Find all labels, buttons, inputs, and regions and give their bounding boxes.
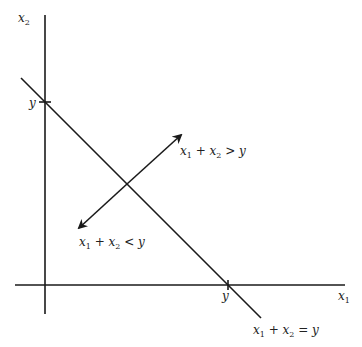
horizontal-axis-label: x1	[338, 289, 350, 305]
vertical-axis-label: x2	[18, 11, 30, 27]
region-label-less: x1 + x2 < y	[79, 235, 145, 251]
arrow-greater-region	[127, 135, 181, 184]
vertical-intercept-label: y	[28, 96, 36, 110]
budget-line-label: x1 + x2 = y	[253, 323, 319, 339]
horizontal-intercept-label: y	[221, 289, 229, 303]
region-label-greater: x1 + x2 > y	[180, 144, 246, 160]
diagram-canvas: x2 x1 y y x1 + x2 > y x1 + x2 < y x1 + x…	[0, 0, 362, 347]
budget-line	[21, 78, 261, 318]
arrow-less-region	[79, 184, 127, 228]
